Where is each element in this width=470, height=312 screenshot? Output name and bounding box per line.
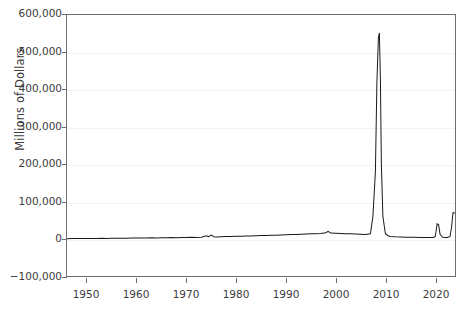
y-tick-label: 200,000	[0, 157, 62, 169]
plot-area	[66, 14, 456, 277]
x-tick-mark	[436, 278, 437, 283]
x-tick-mark	[286, 278, 287, 283]
x-axis-tick-labels: 19501960197019801990200020102020	[66, 278, 456, 308]
x-tick-label: 2000	[323, 288, 350, 300]
y-tick-label: 0	[0, 232, 62, 244]
x-tick-mark	[186, 278, 187, 283]
y-tick-label: −100,000	[0, 270, 62, 282]
x-tick-mark	[86, 278, 87, 283]
y-tick-label: 300,000	[0, 120, 62, 132]
y-axis-tick-labels: 600,000500,000400,000300,000200,000100,0…	[0, 14, 62, 277]
y-tick-label: 400,000	[0, 82, 62, 94]
x-tick-mark	[336, 278, 337, 283]
x-tick-label: 1980	[223, 288, 250, 300]
y-tick-label: 500,000	[0, 45, 62, 57]
x-tick-label: 2020	[423, 288, 450, 300]
x-tick-label: 1970	[173, 288, 200, 300]
series-polyline	[67, 33, 455, 239]
x-tick-label: 1960	[123, 288, 150, 300]
x-tick-mark	[236, 278, 237, 283]
y-tick-label: 600,000	[0, 7, 62, 19]
x-tick-mark	[386, 278, 387, 283]
series-line	[67, 15, 455, 276]
x-tick-label: 1950	[73, 288, 100, 300]
x-tick-label: 1990	[273, 288, 300, 300]
x-tick-label: 2010	[373, 288, 400, 300]
x-tick-mark	[136, 278, 137, 283]
y-tick-label: 100,000	[0, 195, 62, 207]
chart-figure: Millions of Dollars 600,000500,000400,00…	[0, 0, 470, 312]
